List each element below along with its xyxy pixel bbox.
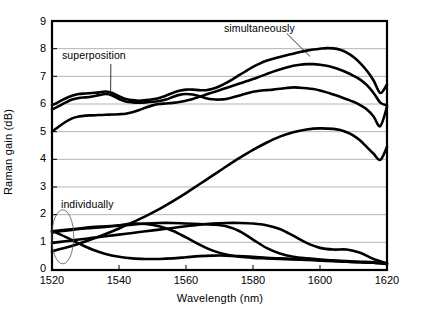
plot-area [0, 0, 428, 314]
series-line [52, 64, 387, 132]
series-line [52, 223, 387, 263]
plot-frame [52, 21, 387, 270]
series-line [52, 128, 387, 251]
series-line [52, 87, 387, 126]
raman-gain-chart: Raman gain (dB) Wavelength (nm) 9 8 7 6 … [0, 0, 428, 314]
series-line [52, 223, 387, 263]
series-line [52, 223, 387, 264]
